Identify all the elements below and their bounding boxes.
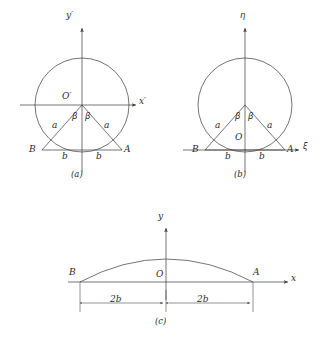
origin-label-a: O′ (62, 92, 71, 101)
base-b-right-label-b: b (259, 152, 265, 161)
angle-beta-left-label-b: β (235, 112, 240, 121)
point-a-label-b: A (287, 145, 294, 154)
axis-y-label: y (158, 212, 163, 221)
origin-label-b: O (235, 133, 242, 142)
caption-b: (b) (234, 170, 246, 179)
side-a-right-label-b: a (267, 121, 272, 130)
caption-c: (c) (155, 317, 166, 326)
base-b-left-label-a: b (62, 152, 68, 161)
side-a-left-label-b: a (215, 121, 220, 130)
arc-c (80, 259, 253, 282)
dimension-right-label: 2b (197, 295, 209, 304)
origin-label-c: O (156, 270, 163, 279)
axis-y-prime-label: y′ (66, 11, 73, 20)
dimension-left-label: 2b (110, 295, 122, 304)
angle-beta-right-label-a: β (85, 112, 90, 121)
axis-x-label: x (291, 274, 296, 283)
point-b-label-b: B (192, 145, 199, 154)
axis-x-prime-label: x′ (139, 97, 146, 106)
angle-beta-left-label-a: β (72, 112, 77, 121)
point-b-label-a: B (29, 145, 36, 154)
axis-eta-label: η (240, 11, 245, 20)
point-a-label-a: A (124, 145, 131, 154)
figure-canvas (0, 0, 331, 337)
side-a-left-label-a: a (52, 121, 57, 130)
panel-b-graphics (183, 28, 299, 172)
caption-a: (a) (71, 170, 83, 179)
angle-beta-right-label-b: β (248, 112, 253, 121)
side-a-right-label-a: a (104, 121, 109, 130)
panel-a-graphics (20, 28, 136, 172)
point-b-label-c: B (69, 268, 76, 277)
base-b-left-label-b: b (225, 152, 231, 161)
point-a-label-c: A (253, 268, 260, 277)
base-b-right-label-a: b (96, 152, 102, 161)
axis-xi-label: ξ (303, 142, 308, 151)
